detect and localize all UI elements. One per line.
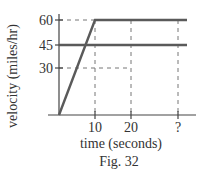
y-axis-label: velocity (miles/hr)	[5, 24, 21, 128]
y-tick-45: 45	[39, 38, 53, 53]
y-tick-30: 30	[39, 61, 53, 76]
figure-caption: Fig. 32	[99, 154, 139, 169]
y-tick-60: 60	[39, 13, 53, 28]
x-tick-20: 20	[124, 120, 138, 135]
x-axis-label: time (seconds)	[80, 136, 162, 152]
axes	[48, 14, 196, 119]
x-tick-unknown: ?	[175, 120, 181, 135]
x-tick-10: 10	[88, 120, 102, 135]
velocity-time-chart: 60 45 30 10 20 ? time (seconds) velocity…	[0, 0, 206, 172]
